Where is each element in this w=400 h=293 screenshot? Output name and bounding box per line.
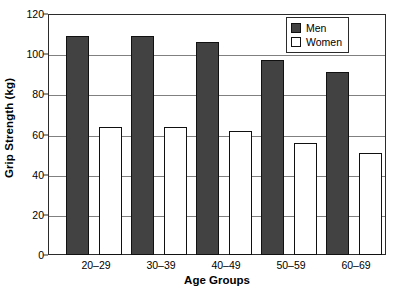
- legend-swatch-men-icon: [291, 23, 301, 33]
- legend-item-men: Men: [291, 21, 342, 35]
- bar-men-50-59: [261, 60, 284, 255]
- y-tick-label-40: 40: [4, 169, 44, 181]
- x-axis-title: Age Groups: [48, 274, 386, 286]
- bar-men-60-69: [326, 72, 349, 255]
- bar-men-30-39: [131, 36, 154, 255]
- x-tick-label-60-69: 60–69: [316, 259, 396, 271]
- y-tick-label-80: 80: [4, 88, 44, 100]
- legend-label-men: Men: [306, 22, 326, 34]
- bar-women-40-49: [229, 131, 252, 256]
- bar-women-50-59: [294, 143, 317, 256]
- y-tick-label-100: 100: [4, 48, 44, 60]
- y-tick-label-0: 0: [4, 249, 44, 261]
- bar-men-20-29: [66, 36, 89, 255]
- legend-item-women: Women: [291, 35, 342, 49]
- bar-women-60-69: [359, 153, 382, 255]
- chart-legend: Men Women: [286, 17, 349, 53]
- bar-men-40-49: [196, 42, 219, 255]
- bar-women-30-39: [164, 127, 187, 256]
- bar-women-20-29: [99, 127, 122, 256]
- grip-strength-bar-chart: Grip Strength (kg) 120 100 80 60 40 20 0: [0, 0, 400, 293]
- legend-label-women: Women: [306, 36, 342, 48]
- y-tick-label-120: 120: [4, 8, 44, 20]
- legend-swatch-women-icon: [291, 37, 301, 47]
- y-tick-label-20: 20: [4, 209, 44, 221]
- y-tick-label-60: 60: [4, 129, 44, 141]
